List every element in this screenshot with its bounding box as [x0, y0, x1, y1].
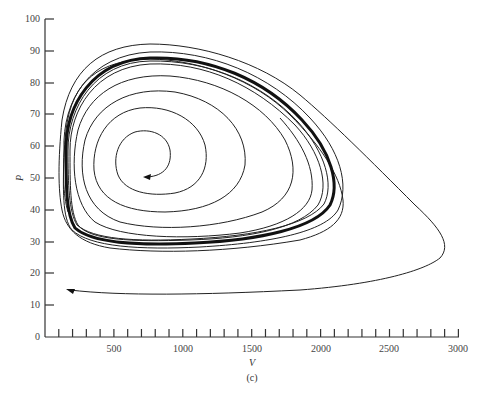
y-tick-labels: 100 90 80 70 60 50 40 30 20 10 0	[25, 13, 40, 342]
y-axis-title: P	[14, 175, 25, 182]
x-tick-label: 3000	[448, 343, 468, 354]
x-axis-title: V	[249, 357, 257, 368]
phase-plane-chart: 100 90 80 70 60 50 40 30 20 10 0 500 100…	[0, 0, 481, 393]
figure-caption: (c)	[246, 372, 257, 384]
y-axis	[45, 19, 54, 337]
trajectories	[59, 44, 445, 294]
x-tick-labels: 500 1000 1500 2000 2500 3000	[107, 343, 469, 354]
x-tick-label: 2500	[379, 343, 399, 354]
x-tick-label: 500	[107, 343, 122, 354]
y-tick-label: 30	[30, 236, 40, 247]
y-tick-label: 70	[30, 108, 40, 119]
inner-spiral	[74, 76, 312, 237]
x-axis	[45, 329, 459, 337]
x-tick-label: 1000	[173, 343, 193, 354]
limit-cycle	[66, 58, 334, 244]
y-tick-label: 100	[25, 13, 40, 24]
y-tick-label: 60	[30, 140, 40, 151]
y-tick-label: 50	[30, 172, 40, 183]
y-tick-label: 10	[30, 299, 40, 310]
trajectory-ring	[70, 64, 323, 241]
y-tick-label: 80	[30, 77, 40, 88]
arrowhead-icon	[143, 174, 151, 180]
arrowhead-icon	[66, 289, 75, 294]
y-tick-label: 20	[30, 267, 40, 278]
y-tick-label: 0	[35, 331, 40, 342]
y-tick-label: 40	[30, 204, 40, 215]
y-tick-label: 90	[30, 45, 40, 56]
x-tick-label: 1500	[242, 343, 262, 354]
x-tick-label: 2000	[311, 343, 331, 354]
